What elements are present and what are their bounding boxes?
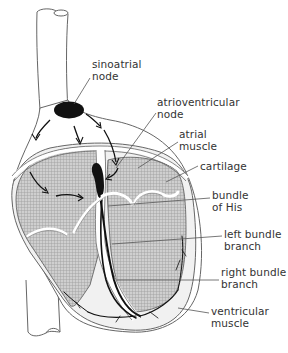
sinoatrial-node-shape (54, 102, 84, 119)
label-line: branch (221, 278, 286, 290)
label-line: sinoatrial (92, 58, 142, 70)
label-line: ventricular (211, 305, 269, 317)
label-line: node (157, 108, 240, 120)
label-atrioventricular-node: atrioventricular node (157, 96, 240, 120)
label-line: muscle (179, 140, 217, 152)
label-line: of His (212, 201, 249, 213)
label-atrial-muscle: atrial muscle (179, 128, 217, 152)
label-line: left bundle (224, 228, 281, 240)
heart-conduction-diagram: sinoatrial node atrioventricular node at… (0, 0, 288, 353)
label-line: atrial (179, 128, 217, 140)
superior-vena-cava (37, 9, 68, 110)
label-cartilage: cartilage (200, 160, 247, 172)
label-line: branch (224, 240, 281, 252)
label-sinoatrial-node: sinoatrial node (92, 58, 142, 82)
label-ventricular-muscle: ventricular muscle (211, 305, 269, 329)
heart-illustration (0, 0, 288, 353)
label-line: right bundle (221, 266, 286, 278)
label-right-bundle-branch: right bundle branch (221, 266, 286, 290)
label-line: bundle (212, 189, 249, 201)
label-bundle-of-his: bundle of His (212, 189, 249, 213)
label-line: atrioventricular (157, 96, 240, 108)
label-line: node (92, 70, 142, 82)
label-line: cartilage (200, 160, 247, 172)
label-left-bundle-branch: left bundle branch (224, 228, 281, 252)
label-line: muscle (211, 317, 269, 329)
